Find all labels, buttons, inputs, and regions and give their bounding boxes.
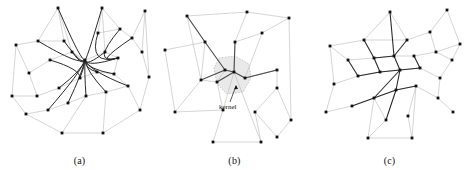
- panel-a-edge: [114, 74, 128, 86]
- panel-c-node: [385, 119, 388, 122]
- panel-a-edge: [145, 11, 149, 77]
- panel-a-node: [102, 132, 105, 135]
- panel-a-edge: [12, 45, 16, 96]
- panel-c-bundled-edge: [396, 86, 416, 90]
- panel-c-bundled-edges: [348, 12, 420, 120]
- panel-c-edge: [326, 106, 352, 112]
- panel-c-bundled-edge: [380, 70, 400, 72]
- panel-b-node: [290, 119, 293, 122]
- panel-a-edge: [132, 38, 142, 52]
- panel-a-edge: [102, 8, 120, 29]
- panel-a-node: [119, 28, 122, 31]
- panel-c-edge: [420, 68, 440, 78]
- panel-c-edge: [438, 78, 440, 98]
- panel-c-node: [351, 105, 354, 108]
- panel-a: (a): [2, 0, 157, 170]
- panel-c-bundled-edge: [358, 72, 380, 76]
- panel-b-edge: [255, 88, 277, 112]
- panel-a-edge: [103, 92, 106, 133]
- panel-a-bundled-edge: [95, 33, 118, 59]
- panel-c-bundled-edge: [374, 58, 380, 72]
- panel-c-node: [389, 11, 392, 14]
- panel-c-edge: [430, 32, 436, 52]
- panel-c-edge: [326, 84, 334, 112]
- panel-b-node: [288, 17, 291, 20]
- panel-a-node: [25, 113, 28, 116]
- panel-c-node: [325, 111, 328, 114]
- panel-b-edge: [175, 110, 223, 112]
- panel-c-node: [429, 31, 432, 34]
- panel-c-node: [357, 75, 360, 78]
- panel-a-edge: [26, 114, 62, 133]
- panel-a-light-edges: [12, 8, 149, 133]
- panel-b-node: [200, 79, 203, 82]
- panel-c-edge: [330, 40, 364, 46]
- panel-b-node: [224, 69, 227, 72]
- panel-a-node: [117, 57, 120, 60]
- panel-a-edge: [62, 96, 86, 133]
- panel-a-edge: [16, 45, 29, 73]
- panel-b-graph: [157, 0, 312, 148]
- panel-b-edge: [255, 112, 261, 142]
- panel-a-edge: [140, 77, 149, 110]
- panel-c-node: [347, 59, 350, 62]
- panel-c-edge: [368, 98, 374, 138]
- panel-b-node: [246, 11, 249, 14]
- panel-a-node: [113, 73, 116, 76]
- panel-b-edge: [245, 33, 262, 78]
- panel-b-node: [276, 69, 279, 72]
- panel-c-bundled-edge: [394, 40, 407, 56]
- panel-a-edge: [12, 96, 26, 114]
- panel-c-edge: [436, 52, 452, 60]
- panel-c-node: [451, 59, 454, 62]
- panel-c-node: [363, 39, 366, 42]
- panel-a-node: [131, 37, 134, 40]
- panel-a-node: [97, 32, 100, 35]
- panel-a-bundled-edge: [104, 29, 120, 59]
- panel-c-node: [393, 55, 396, 58]
- panel-a-edge: [80, 72, 97, 78]
- panel-b-node: [186, 15, 189, 18]
- panel-c-node: [411, 137, 414, 140]
- panel-b-dark-edges: [187, 16, 277, 82]
- panel-a-node: [139, 109, 142, 112]
- panel-a-node: [58, 87, 61, 90]
- panel-a-bundled-edge: [85, 60, 86, 96]
- panel-a-node: [144, 10, 147, 13]
- panel-a-edge: [29, 60, 50, 73]
- panel-a-edge: [86, 92, 106, 96]
- panel-a-node: [104, 51, 107, 54]
- panel-b-edge: [289, 18, 291, 120]
- panel-a-graph: [2, 0, 157, 148]
- panel-c-node: [407, 115, 410, 118]
- panel-b-edge: [255, 112, 277, 137]
- panel-b-node: [216, 81, 219, 84]
- panel-c-nodes: [325, 9, 462, 140]
- panel-c-node: [373, 57, 376, 60]
- panel-a-edge: [38, 8, 58, 41]
- panel-a-edge: [26, 110, 48, 114]
- panel-a-node: [61, 132, 64, 135]
- panel-c-edge: [330, 46, 334, 84]
- panel-a-node: [127, 85, 130, 88]
- panel-c-node: [406, 39, 409, 42]
- panel-c-node: [419, 67, 422, 70]
- panel-b-edge: [235, 33, 262, 42]
- panel-c-edge: [374, 98, 386, 120]
- panel-c-edge: [408, 116, 412, 138]
- panel-b-edge: [175, 80, 201, 112]
- panel-b-edge: [262, 18, 289, 33]
- panel-c-node: [437, 97, 440, 100]
- panel-b-node: [164, 49, 167, 52]
- panel-a-edge: [114, 58, 118, 74]
- panel-b-edge: [247, 12, 289, 18]
- panel-a-node: [71, 51, 74, 54]
- panel-c-node: [333, 83, 336, 86]
- panel-c-node: [446, 9, 449, 12]
- panel-b-edge: [277, 88, 291, 120]
- panel-c-edge: [416, 86, 438, 98]
- panel-a-edge: [29, 73, 37, 96]
- panel-a-node: [85, 95, 88, 98]
- panel-c-edge: [438, 98, 453, 112]
- panel-b-node: [204, 41, 207, 44]
